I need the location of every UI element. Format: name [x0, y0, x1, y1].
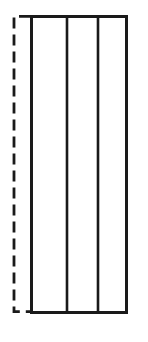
dashed-reference-bracket	[14, 16, 32, 311]
drawing-canvas	[0, 0, 148, 342]
panel-group	[32, 16, 127, 313]
dashed-bracket-path	[14, 16, 32, 311]
panel-outline	[32, 17, 127, 313]
line-drawing	[0, 0, 148, 342]
